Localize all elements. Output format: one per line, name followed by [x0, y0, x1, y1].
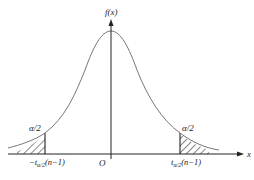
- y-axis-label: f(x): [105, 7, 118, 17]
- y-axis: [109, 19, 114, 159]
- svg-text:tα/2(n−1): tα/2(n−1): [171, 157, 201, 168]
- left-critical-suffix: (n−1): [45, 157, 65, 167]
- x-axis-label: x: [246, 149, 251, 159]
- t-distribution-diagram: f(x) x O α/2 α/2 −tα/2(n−1) tα/2(n−1): [0, 0, 254, 180]
- y-axis-arrow-icon: [109, 19, 114, 26]
- left-critical-subscript: α/2: [37, 162, 45, 168]
- left-tail-area-label: α/2: [29, 123, 41, 133]
- right-critical-suffix: (n−1): [181, 157, 201, 167]
- origin-label: O: [99, 158, 106, 168]
- x-axis-arrow-icon: [237, 152, 244, 157]
- svg-text:−tα/2(n−1): −tα/2(n−1): [29, 157, 65, 168]
- left-critical-value-label: −tα/2(n−1): [29, 157, 65, 168]
- right-critical-value-label: tα/2(n−1): [171, 157, 201, 168]
- right-critical-subscript: α/2: [173, 162, 181, 168]
- right-tail-area-label: α/2: [182, 123, 194, 133]
